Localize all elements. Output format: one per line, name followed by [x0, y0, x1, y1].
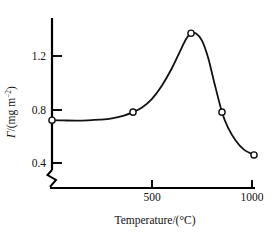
chart-container: 1.2 0.8 0.4 500 1000 Temperature/(°C) Γ/… — [0, 0, 277, 235]
data-point — [188, 30, 194, 36]
data-point — [49, 117, 55, 123]
data-point — [130, 109, 136, 115]
x-axis-title: Temperature/(°C) — [114, 214, 195, 227]
x-tick-label-1000: 1000 — [241, 191, 264, 203]
data-point-markers — [49, 30, 257, 158]
y-axis-break-icon — [48, 170, 57, 187]
y-axis-title: Γ/(mg m−2) — [4, 86, 18, 139]
svg-text:Γ/(mg m−2): Γ/(mg m−2) — [4, 86, 18, 139]
y-tick-label-0.4: 0.4 — [32, 157, 47, 169]
y-axis-title-close: ) — [5, 86, 18, 90]
y-axis-title-unit: /(mg m — [5, 98, 18, 132]
x-axis-ticks — [152, 180, 252, 188]
data-point — [219, 109, 225, 115]
x-tick-label-500: 500 — [143, 191, 161, 203]
y-axis-ticks — [52, 56, 62, 163]
y-tick-label-0.8: 0.8 — [32, 104, 47, 116]
line-chart: 1.2 0.8 0.4 500 1000 Temperature/(°C) Γ/… — [0, 0, 277, 235]
y-tick-label-1.2: 1.2 — [32, 50, 47, 62]
data-point — [251, 152, 257, 158]
data-series-line — [52, 33, 254, 155]
